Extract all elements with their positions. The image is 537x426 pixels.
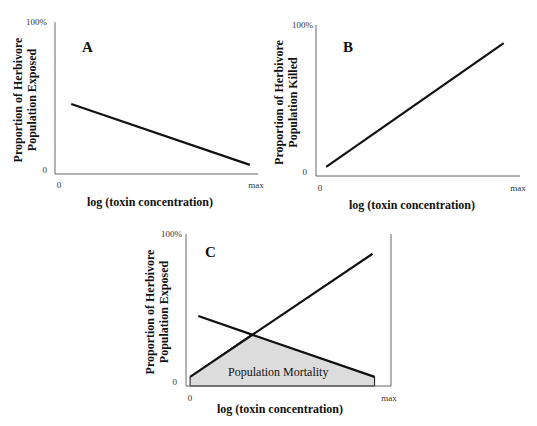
x-tick-label: max — [248, 180, 264, 190]
panel-b: 0100%0maxlog (toxin concentration)Propor… — [272, 20, 526, 212]
x-tick-label: max — [510, 183, 526, 193]
y-axis-title: Population Killed — [286, 57, 300, 148]
x-axis-title: log (toxin concentration) — [87, 195, 213, 209]
x-tick-label: 0 — [318, 183, 323, 193]
x-tick-label: 0 — [188, 393, 193, 403]
panel-letter: B — [343, 39, 353, 55]
area-label: Population Mortality — [228, 365, 328, 379]
panel-c: 0100%0maxlog (toxin concentration)Propor… — [143, 229, 397, 416]
y-tick-label: 100% — [26, 17, 48, 27]
y-tick-label: 100% — [292, 20, 314, 30]
y-tick-label: 0 — [303, 167, 308, 177]
x-axis-title: log (toxin concentration) — [217, 402, 343, 416]
y-axis-title: Population Exposed — [25, 48, 39, 151]
x-tick-label: max — [381, 393, 397, 403]
x-tick-label: 0 — [57, 180, 62, 190]
series-line-proportion-killed — [326, 43, 503, 167]
figure: 0100%0maxlog (toxin concentration)Propor… — [0, 0, 537, 426]
panel-letter: C — [205, 244, 216, 260]
series-line-proportion-exposed — [71, 104, 250, 165]
y-tick-label: 100% — [161, 229, 183, 239]
y-axis-title: Proportion of Herbivore — [11, 37, 25, 163]
y-tick-label: 0 — [43, 165, 48, 175]
y-axis-title: Proportion of Herbivore — [272, 39, 286, 165]
y-axis-title: Proportion of Herbivore — [143, 249, 157, 375]
y-tick-label: 0 — [173, 377, 178, 387]
panel-a: 0100%0maxlog (toxin concentration)Propor… — [11, 17, 264, 209]
panel-letter: A — [82, 39, 93, 55]
x-axis-title: log (toxin concentration) — [349, 198, 475, 212]
y-axis-title: Population Exposed — [157, 260, 171, 363]
